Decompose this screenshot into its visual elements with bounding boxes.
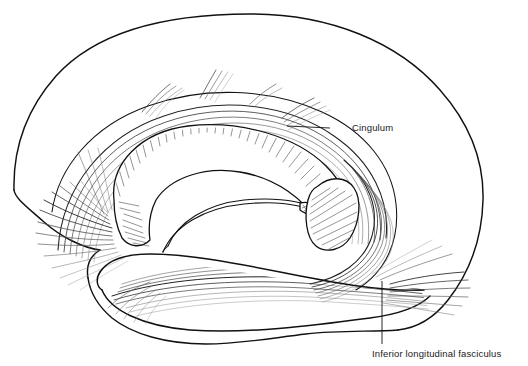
cingulum-label: Cingulum: [352, 122, 393, 133]
fornix: [163, 199, 326, 252]
brain-fiber-tract-diagram: Cingulum Inferior longitudinal fasciculu…: [0, 0, 528, 366]
label-inferior-longitudinal-fasciculus: Inferior longitudinal fasciculus: [372, 281, 502, 359]
temporal-radiation: [108, 282, 166, 324]
temporal-lobe: [97, 254, 430, 331]
figure-root: Cingulum Inferior longitudinal fasciculu…: [0, 0, 528, 366]
cerebral-outline: [14, 14, 483, 344]
splenium-pulvinar: [306, 179, 359, 250]
ilf-label: Inferior longitudinal fasciculus: [372, 348, 502, 359]
label-cingulum: Cingulum: [287, 122, 393, 133]
